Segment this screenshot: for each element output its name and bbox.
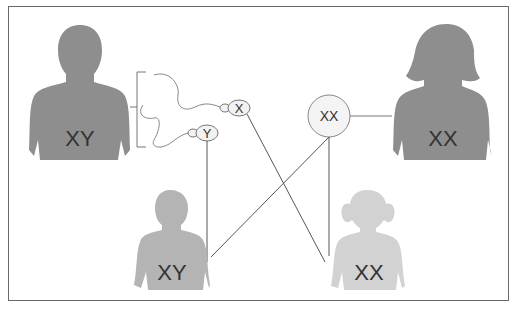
line-egg-to-son bbox=[211, 137, 329, 257]
sperm-y-tail bbox=[141, 105, 190, 147]
son-figure: XY bbox=[134, 190, 210, 290]
mother-label: XX bbox=[428, 126, 458, 151]
inheritance-lines bbox=[207, 114, 329, 262]
bracket-connector bbox=[130, 72, 146, 147]
inheritance-diagram: XY X Y XX XX XY XX bbox=[0, 0, 517, 309]
father-figure: XY bbox=[29, 25, 130, 160]
mother-figure: XX bbox=[393, 24, 492, 160]
sperm-x-label: X bbox=[235, 101, 244, 116]
sperm-x-tail bbox=[154, 74, 220, 109]
egg-label: XX bbox=[320, 108, 339, 124]
line-sperm-x-to-daughter bbox=[247, 114, 325, 262]
sperm-y: Y bbox=[188, 125, 218, 141]
son-label: XY bbox=[157, 260, 187, 285]
daughter-figure: XX bbox=[331, 190, 405, 290]
sperm-x: X bbox=[220, 100, 250, 116]
daughter-label: XX bbox=[354, 260, 384, 285]
egg-cell: XX bbox=[308, 95, 392, 137]
father-label: XY bbox=[65, 126, 95, 151]
sperm-y-label: Y bbox=[203, 126, 212, 141]
